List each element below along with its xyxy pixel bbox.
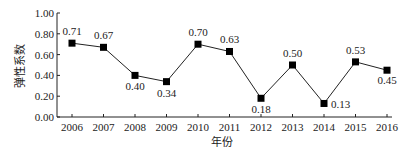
data-point-marker bbox=[258, 95, 265, 102]
data-point-marker bbox=[384, 67, 391, 74]
x-tick-label: 2012 bbox=[250, 121, 272, 133]
data-point-label: 0.34 bbox=[157, 87, 177, 99]
data-point-marker bbox=[163, 78, 170, 85]
y-axis-title: 弹性系数 bbox=[13, 44, 27, 88]
y-axis-ticks: 0.000.200.400.600.801.00 bbox=[35, 7, 60, 123]
data-point-marker bbox=[69, 40, 76, 47]
data-point-label: 0.53 bbox=[346, 44, 366, 56]
y-tick-label: 0.20 bbox=[35, 90, 55, 102]
data-point-label: 0.71 bbox=[62, 25, 81, 37]
x-tick-label: 2007 bbox=[93, 121, 116, 133]
x-tick-label: 2006 bbox=[61, 121, 84, 133]
data-point-label: 0.50 bbox=[283, 47, 303, 59]
data-point-label: 0.70 bbox=[188, 26, 208, 38]
x-tick-label: 2009 bbox=[156, 121, 179, 133]
x-tick-label: 2015 bbox=[345, 121, 368, 133]
data-point-label: 0.63 bbox=[220, 33, 240, 45]
data-point-marker bbox=[226, 48, 233, 55]
data-markers bbox=[69, 40, 391, 107]
x-tick-label: 2011 bbox=[219, 121, 241, 133]
x-tick-label: 2010 bbox=[187, 121, 210, 133]
data-point-marker bbox=[100, 44, 107, 51]
line-chart: 0.000.200.400.600.801.00 200620072008200… bbox=[0, 0, 413, 154]
data-point-marker bbox=[321, 100, 328, 107]
data-point-marker bbox=[132, 72, 139, 79]
y-tick-label: 1.00 bbox=[35, 7, 55, 19]
data-point-marker bbox=[352, 58, 359, 65]
data-labels: 0.710.670.400.340.700.630.180.500.130.53… bbox=[62, 25, 397, 115]
y-tick-label: 0.00 bbox=[35, 111, 55, 123]
data-point-marker bbox=[289, 62, 296, 69]
x-tick-label: 2008 bbox=[124, 121, 147, 133]
x-axis-title: 年份 bbox=[211, 135, 233, 149]
x-tick-label: 2014 bbox=[313, 121, 336, 133]
data-point-label: 0.45 bbox=[377, 74, 397, 86]
data-point-label: 0.40 bbox=[125, 80, 145, 92]
data-point-label: 0.18 bbox=[251, 103, 271, 115]
y-tick-label: 0.40 bbox=[35, 69, 55, 81]
y-tick-label: 0.80 bbox=[35, 28, 55, 40]
y-tick-label: 0.60 bbox=[35, 49, 55, 61]
x-tick-label: 2013 bbox=[282, 121, 305, 133]
data-point-label: 0.67 bbox=[94, 29, 114, 41]
x-tick-label: 2016 bbox=[376, 121, 399, 133]
data-point-label: 0.13 bbox=[331, 98, 351, 110]
data-point-marker bbox=[195, 41, 202, 48]
